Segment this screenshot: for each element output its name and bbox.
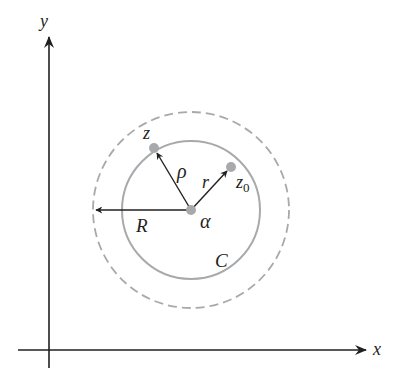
z0-label-subscript: 0	[243, 180, 250, 195]
R-label: R	[135, 215, 148, 236]
center-point-alpha	[186, 205, 196, 215]
x-axis-label: x	[372, 339, 381, 359]
contour-C-label: C	[215, 250, 228, 271]
r-label: r	[202, 172, 210, 192]
point-z	[149, 143, 159, 153]
y-axis-label: y	[38, 11, 48, 31]
axes: x y	[18, 11, 381, 368]
point-z0	[226, 162, 236, 172]
z0-label: z0	[235, 172, 250, 195]
complex-plane-diagram: x y z ρ r z0 α R C	[0, 0, 403, 389]
z-label: z	[142, 123, 150, 143]
alpha-label: α	[200, 210, 211, 232]
z0-label-base: z	[235, 172, 243, 192]
rho-label: ρ	[176, 160, 187, 183]
